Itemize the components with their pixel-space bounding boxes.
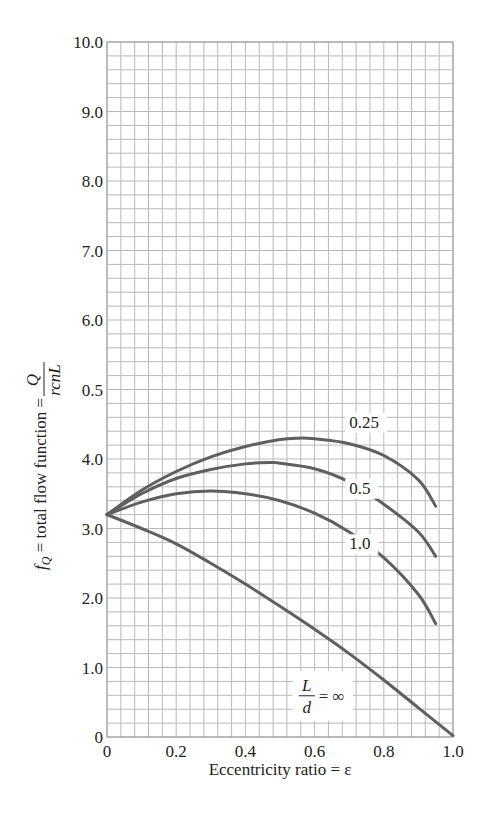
- x-tick-label: 0.8: [373, 742, 394, 761]
- curve-0-25: [107, 438, 436, 515]
- x-axis-title: Eccentricity ratio = ε: [209, 760, 352, 779]
- x-tick-label: 0.4: [235, 742, 257, 761]
- y-tick-label: 0: [95, 728, 104, 747]
- curve-Ld: [107, 515, 453, 736]
- svg-text:fQ = total flow function =: fQ = total flow function =: [31, 398, 53, 570]
- y-tick-label: 4.0: [82, 450, 103, 469]
- x-tick-label: 1.0: [442, 742, 463, 761]
- y-title-numerator: Q: [23, 374, 42, 386]
- y-tick-labels: 01.02.03.04.00.56.07.08.09.010.0: [73, 33, 103, 747]
- y-tick-label: 6.0: [82, 311, 103, 330]
- grid: [107, 42, 453, 737]
- y-title-sub: Q: [39, 556, 53, 565]
- y-tick-label: 8.0: [82, 172, 103, 191]
- y-tick-label: 9.0: [82, 103, 103, 122]
- curve-label: 0.5: [349, 479, 370, 498]
- curve-label: 0.25: [349, 413, 379, 432]
- y-axis-title: fQ = total flow function = Q rcnL: [23, 362, 64, 570]
- y-tick-label: 1.0: [82, 659, 103, 678]
- label-eq-infinity: = ∞: [319, 687, 345, 706]
- label-d: d: [303, 698, 312, 717]
- curve-label: 1.0: [349, 534, 370, 553]
- x-tick-label: 0.2: [166, 742, 187, 761]
- label-L: L: [301, 676, 311, 695]
- y-tick-label: 3.0: [82, 520, 103, 539]
- curve-1-0: [107, 491, 436, 624]
- y-title-text: = total flow function =: [31, 398, 50, 556]
- curves: [107, 438, 453, 736]
- y-title-denominator: rcnL: [45, 364, 64, 396]
- y-tick-label: 2.0: [82, 589, 103, 608]
- x-tick-label: 0: [103, 742, 112, 761]
- x-tick-labels: 00.20.40.60.81.0: [103, 742, 464, 761]
- y-tick-label: 0.5: [82, 381, 103, 400]
- y-tick-label: 7.0: [82, 242, 103, 261]
- flow-function-chart: 0.250.51.0Ld= ∞ 01.02.03.04.00.56.07.08.…: [0, 0, 483, 816]
- y-tick-label: 10.0: [73, 33, 103, 52]
- x-tick-label: 0.6: [304, 742, 325, 761]
